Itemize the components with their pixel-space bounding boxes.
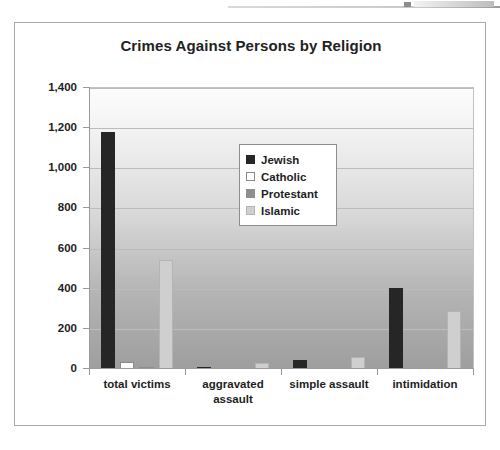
- y-axis-tick: [83, 87, 89, 88]
- bar-series-container: [89, 88, 473, 369]
- bar-jewish-intimidation: [389, 288, 403, 369]
- y-axis-tick-label: 800: [15, 201, 77, 213]
- chart-figure-frame: Crimes Against Persons by Religion 02004…: [14, 22, 486, 426]
- chart-legend: JewishCatholicProtestantIslamic: [239, 144, 337, 226]
- y-axis-line: [89, 87, 90, 369]
- legend-item-label: Jewish: [261, 154, 299, 166]
- chart-title: Crimes Against Persons by Religion: [15, 37, 487, 54]
- legend-item-catholic: Catholic: [246, 168, 329, 185]
- y-axis-tick: [83, 127, 89, 128]
- legend-item-islamic: Islamic: [246, 202, 329, 219]
- y-axis-tick-label: 1,200: [15, 121, 77, 133]
- bar-islamic-intimidation: [447, 311, 461, 369]
- category-label-aggravated-assault: aggravated assault: [185, 377, 281, 407]
- category-tick: [89, 368, 90, 375]
- y-axis-tick-label: 1,000: [15, 161, 77, 173]
- bar-jewish-total-victims: [101, 132, 115, 369]
- scan-smudge: [414, 1, 494, 7]
- y-axis-tick: [83, 167, 89, 168]
- plot-area: [89, 87, 474, 369]
- y-axis-tick: [83, 288, 89, 289]
- category-tick: [377, 368, 378, 375]
- category-label-intimidation: intimidation: [377, 377, 473, 392]
- legend-swatch-icon: [246, 206, 255, 215]
- y-axis-tick: [83, 248, 89, 249]
- y-axis-tick-label: 1,400: [15, 81, 77, 93]
- category-tick: [473, 368, 474, 375]
- legend-swatch-icon: [246, 155, 255, 164]
- legend-item-protestant: Protestant: [246, 185, 329, 202]
- scan-mark: [404, 2, 411, 7]
- y-axis-tick-label: 0: [15, 362, 77, 374]
- legend-swatch-icon: [246, 189, 255, 198]
- y-axis-tick: [83, 207, 89, 208]
- legend-item-label: Islamic: [261, 205, 300, 217]
- legend-item-label: Protestant: [261, 188, 318, 200]
- page-scan-artifact: [0, 0, 500, 9]
- y-axis-tick-label: 200: [15, 322, 77, 334]
- y-axis-tick-label: 600: [15, 242, 77, 254]
- category-tick: [185, 368, 186, 375]
- legend-swatch-icon: [246, 172, 255, 181]
- category-label-total-victims: total victims: [89, 377, 185, 392]
- y-axis-tick-label: 400: [15, 282, 77, 294]
- category-tick: [281, 368, 282, 375]
- y-axis-tick: [83, 328, 89, 329]
- legend-item-jewish: Jewish: [246, 151, 329, 168]
- category-label-simple-assault: simple assault: [281, 377, 377, 392]
- legend-item-label: Catholic: [261, 171, 306, 183]
- bar-islamic-total-victims: [159, 260, 173, 369]
